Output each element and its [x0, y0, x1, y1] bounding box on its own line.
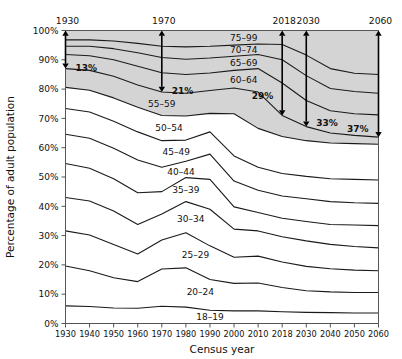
x-tick-label: 1950 [103, 329, 124, 339]
y-tick-label: 80% [38, 84, 58, 94]
annotation-year-2030: 2030 [297, 15, 321, 26]
annotation-percent-2060: 37% [347, 124, 369, 134]
band-label-30-34: 30–34 [177, 214, 205, 224]
band-label-45-49: 45–49 [163, 147, 191, 157]
band-label-25-29: 25–29 [182, 250, 210, 260]
band-label-55-59: 55–59 [148, 99, 176, 109]
band-label-60-64: 60–64 [230, 75, 258, 85]
y-tick-label: 40% [38, 202, 58, 212]
band-label-35-39: 35–39 [172, 185, 200, 195]
band-label-20-24: 20–24 [187, 287, 215, 297]
x-tick-label: 1980 [175, 329, 196, 339]
y-axis-ticks: 0%10%20%30%40%50%60%70%80%90%100% [33, 26, 66, 329]
y-tick-label: 60% [38, 143, 58, 153]
x-tick-label: 2030 [296, 329, 317, 339]
y-tick-label: 50% [38, 172, 58, 182]
y-tick-label: 20% [38, 260, 58, 270]
annotation-percent-2030: 33% [316, 118, 338, 128]
x-axis-title: Census year [190, 343, 255, 355]
annotation-percent-1970: 21% [172, 86, 194, 96]
x-axis-ticks: 1930194019501960197019801990200020102018… [55, 324, 389, 340]
band-label-18-19: 18–19 [196, 312, 224, 322]
band-label-75-99: 75–99 [230, 33, 258, 43]
y-tick-label: 100% [33, 26, 59, 36]
x-tick-label: 1940 [79, 329, 100, 339]
x-tick-label: 2040 [320, 329, 341, 339]
annotation-year-1930: 1930 [56, 15, 80, 26]
y-tick-label: 70% [38, 114, 58, 124]
x-tick-label: 1990 [200, 329, 221, 339]
annotation-percent-2018: 29% [252, 91, 274, 101]
area-fills [66, 31, 379, 324]
band-label-70-74: 70–74 [230, 45, 258, 55]
x-tick-label: 2050 [344, 329, 365, 339]
annotation-year-1970: 1970 [152, 15, 176, 26]
x-tick-label: 2060 [368, 329, 389, 339]
x-tick-label: 1930 [55, 329, 76, 339]
band-label-40-44: 40–44 [167, 167, 195, 177]
x-tick-label: 2010 [248, 329, 269, 339]
band-label-65-69: 65–69 [230, 58, 258, 68]
y-tick-label: 30% [38, 231, 58, 241]
x-tick-label: 2000 [224, 329, 245, 339]
y-tick-label: 0% [44, 319, 59, 329]
y-tick-label: 90% [38, 55, 58, 65]
annotation-year-2018: 2018 [272, 15, 296, 26]
annotation-year-2060: 2060 [369, 15, 393, 26]
annotation-percent-1930: 13% [76, 63, 98, 73]
y-axis-title: Percentage of adult population [4, 96, 16, 258]
x-tick-label: 1970 [151, 329, 172, 339]
chart-canvas: 0%10%20%30%40%50%60%70%80%90%100% 193019… [0, 0, 402, 359]
band-label-50-54: 50–54 [155, 123, 183, 133]
x-tick-label: 1960 [127, 329, 148, 339]
stacked-area-chart: 0%10%20%30%40%50%60%70%80%90%100% 193019… [0, 0, 402, 359]
x-tick-label: 2018 [272, 329, 293, 339]
y-tick-label: 10% [38, 289, 58, 299]
